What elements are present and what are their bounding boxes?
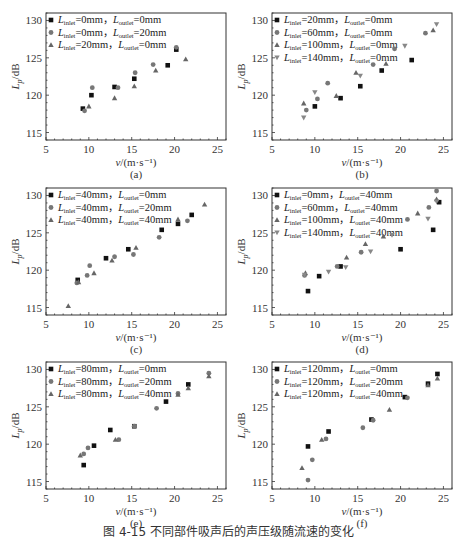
legend: Linlet=20mm，Loutlet=0mmLinlet=60mm，Loutl… <box>274 14 397 64</box>
data-point <box>153 68 158 73</box>
data-point <box>435 372 440 377</box>
data-point <box>301 101 306 106</box>
y-tick-label: 120 <box>26 89 43 101</box>
x-tick-label: 15 <box>126 492 138 504</box>
panel-label: (b) <box>356 168 369 181</box>
x-tick-label: 20 <box>395 318 407 330</box>
legend-entry: Linlet=80mm，Loutlet=0mm <box>57 363 166 375</box>
panel-label: (a) <box>130 168 143 181</box>
legend-marker <box>274 391 279 396</box>
legend-entry: Linlet=100mm，Loutlet=0mm <box>283 39 398 51</box>
y-tick-label: 115 <box>26 127 43 139</box>
y-tick-label: 115 <box>252 127 269 139</box>
data-point <box>132 83 137 88</box>
data-point <box>405 395 410 400</box>
data-point <box>326 270 331 275</box>
data-point <box>398 247 403 252</box>
y-tick-label: 115 <box>26 476 43 488</box>
x-tick-label: 10 <box>83 318 95 330</box>
y-tick-label: 125 <box>26 227 43 239</box>
data-point <box>423 31 428 36</box>
data-point <box>358 84 363 89</box>
data-point <box>312 90 317 95</box>
panel-c: 510152025115120125130v/(m·s⁻¹)Lp/dB(c)Li… <box>9 188 226 356</box>
figure-caption: 图 4-15 不同部件吸声后的声压级随流速的变化 <box>0 522 457 537</box>
data-point <box>86 446 91 451</box>
data-point <box>92 443 97 448</box>
x-tick-label: 10 <box>83 143 95 155</box>
data-point <box>183 57 188 62</box>
data-point <box>306 289 311 294</box>
y-tick-label: 130 <box>252 189 269 201</box>
x-tick-label: 5 <box>43 492 49 504</box>
data-point <box>185 218 190 223</box>
legend-marker <box>275 30 280 35</box>
data-point <box>392 46 397 51</box>
y-tick-label: 115 <box>252 476 269 488</box>
x-tick-label: 20 <box>169 318 181 330</box>
x-tick-label: 25 <box>212 143 224 155</box>
data-point <box>430 27 435 32</box>
legend-marker <box>274 231 279 236</box>
legend-marker <box>49 379 54 384</box>
y-tick-label: 130 <box>26 14 43 26</box>
y-tick-label: 120 <box>252 438 269 450</box>
y-axis-label: Lp/dB <box>9 238 24 265</box>
x-tick-label: 10 <box>309 143 321 155</box>
data-point <box>157 235 162 240</box>
legend: Linlet=120mm，Loutlet=0mmLinlet=120mm，Lou… <box>274 363 403 400</box>
y-tick-label: 120 <box>252 264 269 276</box>
legend-entry: Linlet=0mm，Loutlet=40mm <box>283 189 392 201</box>
data-point <box>306 478 311 483</box>
data-point <box>434 189 439 194</box>
data-point <box>304 108 309 113</box>
data-point <box>415 211 420 216</box>
data-point <box>334 93 339 98</box>
x-tick-label: 10 <box>83 492 95 504</box>
data-point <box>299 465 304 470</box>
data-point <box>431 228 436 233</box>
legend-marker <box>275 18 280 23</box>
legend-entry: Linlet=20mm，Loutlet=0mm <box>57 39 166 51</box>
legend-marker <box>48 217 53 222</box>
data-point <box>108 428 113 433</box>
legend-entry: Linlet=0mm，Loutlet=20mm <box>57 27 166 39</box>
x-tick-label: 15 <box>126 143 138 155</box>
panel-d: 510152025115120125130v/(m·s⁻¹)Lp/dB(d)Li… <box>235 188 452 356</box>
data-point <box>371 62 376 67</box>
data-point <box>434 22 439 27</box>
x-tick-label: 5 <box>269 143 275 155</box>
y-tick-label: 125 <box>252 227 269 239</box>
y-tick-label: 115 <box>26 302 43 314</box>
y-tick-label: 125 <box>252 52 269 64</box>
series-1 <box>81 47 179 111</box>
legend-marker <box>274 56 279 61</box>
x-tick-label: 5 <box>269 492 275 504</box>
legend: Linlet=80mm，Loutlet=0mmLinlet=80mm，Loutl… <box>48 363 171 400</box>
data-point <box>301 116 306 121</box>
data-point <box>358 74 363 79</box>
legend-entry: Linlet=60mm，Loutlet=40mm <box>283 202 398 214</box>
y-axis-label: Lp/dB <box>9 63 24 90</box>
legend-entry: Linlet=0mm，Loutlet=0mm <box>57 14 161 26</box>
data-point <box>359 250 364 255</box>
legend-entry: Linlet=40mm，Loutlet=40mm <box>57 214 172 226</box>
panel-label: (c) <box>130 343 143 356</box>
data-point <box>360 425 365 430</box>
data-point <box>310 457 315 462</box>
legend-marker <box>275 379 280 384</box>
legend-entry: Linlet=40mm，Loutlet=20mm <box>57 202 172 214</box>
data-point <box>133 245 138 250</box>
data-point <box>131 252 136 257</box>
panel-b: 510152025115120125130v/(m·s⁻¹)Lp/dB(b)Li… <box>235 13 452 181</box>
x-tick-label: 25 <box>438 492 450 504</box>
data-point <box>379 68 384 73</box>
data-point <box>176 222 181 227</box>
x-tick-label: 20 <box>395 143 407 155</box>
data-point <box>435 376 440 381</box>
data-point <box>126 247 131 252</box>
data-point <box>116 85 121 90</box>
legend-marker <box>49 205 54 210</box>
data-point <box>112 254 117 259</box>
y-tick-label: 120 <box>26 438 43 450</box>
